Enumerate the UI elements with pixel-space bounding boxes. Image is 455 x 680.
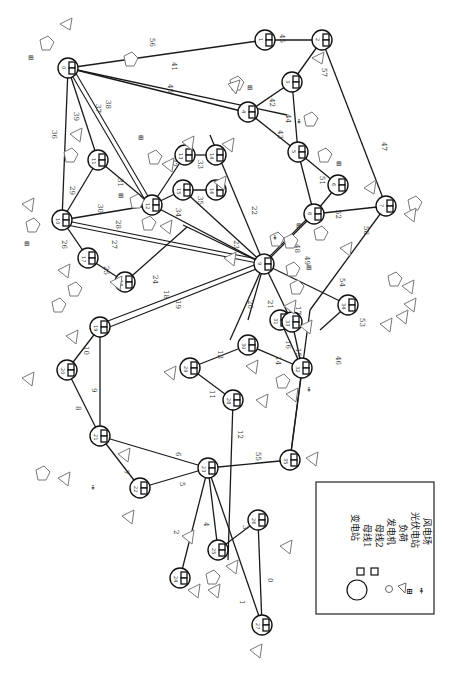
node-id-label: 23 [201, 466, 207, 472]
node-id-label: 17 [81, 256, 87, 262]
bus-square [141, 488, 147, 494]
edge-label-0: 0 [266, 578, 274, 582]
generator-pentagon [64, 148, 78, 162]
node-id-label: 3 [285, 80, 291, 83]
load-triangle [286, 388, 298, 402]
bus-square [184, 190, 190, 196]
generator-pentagon [408, 196, 422, 210]
bus-square [209, 462, 215, 468]
pv-icon: ⊞ [138, 134, 144, 142]
load-triangle [60, 18, 72, 30]
node-id-label: 9 [257, 262, 263, 265]
bus-square [217, 149, 223, 155]
node-id-label: 34 [341, 303, 347, 309]
substation-node: 11 [88, 150, 108, 170]
edge-label-22: 22 [250, 206, 258, 215]
edge-58 [314, 206, 386, 214]
bus-square [291, 460, 297, 466]
substation-node: 33 [282, 312, 302, 332]
edge-24 [125, 227, 187, 282]
bus-square [153, 199, 159, 205]
bus-square [101, 436, 107, 442]
load-triangle [22, 372, 34, 386]
bus-square [219, 544, 225, 550]
load-triangle [70, 128, 82, 142]
node-id-label: 16 [209, 188, 215, 194]
load-triangle [306, 452, 318, 466]
legend-label-wind: 风电场 [422, 518, 433, 545]
generator-pentagon [124, 52, 138, 66]
load-triangle [246, 360, 258, 374]
bus-square [234, 394, 240, 400]
bus-square [259, 520, 265, 526]
bus-square [291, 454, 297, 460]
node-id-label: 6 [331, 183, 337, 186]
generator-pentagon [314, 226, 328, 240]
legend-bus1-symbol [357, 568, 364, 575]
bus-square [293, 322, 299, 328]
edge-36 [62, 68, 68, 220]
load-triangle [340, 242, 352, 256]
bus-square [266, 40, 272, 46]
node-id-label: 4 [241, 110, 247, 113]
edge-label-25: 25 [102, 266, 110, 275]
node-id-label: 26 [251, 518, 257, 524]
edge-label-35: 35 [196, 196, 204, 205]
edge-label-8: 8 [74, 406, 82, 410]
edge-label-36: 36 [50, 130, 58, 139]
bus-square [126, 282, 132, 288]
generator-pentagon [40, 36, 54, 50]
bus-square [265, 264, 271, 270]
edge-label-38: 38 [104, 100, 112, 109]
edge-label-41: 41 [170, 62, 178, 71]
bus-square [249, 106, 255, 112]
edge-label-10: 10 [82, 346, 90, 355]
node-id-label: 10 [55, 218, 61, 224]
load-triangle [58, 472, 70, 486]
substation-node: 20 [57, 360, 77, 380]
edge-label-57: 57 [320, 68, 328, 77]
substation-node: 32 [292, 358, 312, 378]
edge-label-51: 51 [318, 176, 326, 185]
substation-node: 8 [304, 204, 324, 224]
bus-square [153, 205, 159, 211]
legend: ⊞ ⇞ 变电站 母线1 母线2 发电机 负荷 光伏电站 风电场 [316, 482, 434, 614]
generator-pentagon [148, 150, 162, 164]
node-id-label: 13 [178, 153, 184, 159]
bus-square [249, 112, 255, 118]
bus-square [68, 364, 74, 370]
bus-square [63, 220, 69, 226]
legend-label-substation: 变电站 [350, 514, 361, 541]
edge-label-54: 54 [338, 278, 346, 287]
edge-label-44: 44 [284, 114, 292, 123]
edge-label-23: 23 [232, 240, 240, 249]
substation-node: 24 [170, 568, 190, 588]
substation-node: 22 [130, 478, 150, 498]
edge-c5 [290, 368, 302, 460]
bus-square [89, 258, 95, 264]
bus-square [89, 252, 95, 258]
edge-label-16: 16 [284, 340, 292, 349]
pv-icon: ⊞ [247, 84, 253, 92]
bus-square [315, 208, 321, 214]
load-triangle [160, 220, 172, 234]
generator-pentagon [142, 216, 156, 230]
bus-square [184, 184, 190, 190]
edge-56 [68, 40, 265, 68]
edge-label-37: 37 [94, 104, 102, 113]
node-id-label: 28 [226, 398, 232, 404]
edge-label-11: 11 [208, 390, 216, 399]
edge-label-3: 3 [241, 525, 249, 529]
node-id-label: 1 [258, 38, 264, 41]
network-diagram: 56 45 41 40 57 42 44 43 47 51 50 52 58 4… [0, 0, 455, 680]
generator-pentagon [276, 374, 290, 388]
node-id-label: 20 [60, 368, 66, 374]
bus-square [217, 190, 223, 196]
bus-square [339, 179, 345, 185]
bus-square [293, 82, 299, 88]
bus-square [249, 345, 255, 351]
bus-square [339, 185, 345, 191]
load-triangle [164, 366, 176, 380]
load-triangle [118, 448, 130, 462]
edge-label-20: 20 [246, 300, 254, 309]
